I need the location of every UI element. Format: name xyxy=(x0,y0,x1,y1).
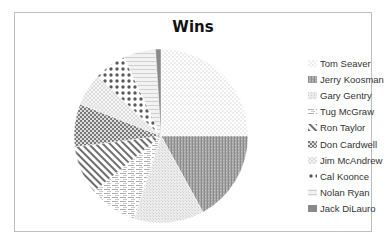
legend-item: Cal Koonce xyxy=(308,168,392,184)
legend-swatch xyxy=(308,124,317,131)
legend-item: Tom Seaver xyxy=(308,55,392,71)
legend-label: Tom Seaver xyxy=(320,58,371,69)
chart-legend: Tom SeaverJerry KoosmanGary GentryTug Mc… xyxy=(308,55,392,217)
legend-swatch xyxy=(308,92,317,99)
legend-swatch xyxy=(308,173,317,180)
legend-swatch xyxy=(308,76,317,83)
legend-label: Jerry Koosman xyxy=(320,74,384,85)
pie-slice-tom-seaver xyxy=(161,49,248,136)
legend-label: Don Cardwell xyxy=(320,139,377,150)
legend-label: Gary Gentry xyxy=(320,90,372,101)
legend-item: Jack DiLauro xyxy=(308,201,392,217)
legend-label: Ron Taylor xyxy=(320,122,365,133)
legend-item: Don Cardwell xyxy=(308,136,392,152)
legend-swatch xyxy=(308,60,317,67)
legend-item: Gary Gentry xyxy=(308,87,392,103)
legend-label: Nolan Ryan xyxy=(320,187,370,198)
legend-swatch xyxy=(308,189,317,196)
legend-swatch xyxy=(308,108,317,115)
legend-item: Nolan Ryan xyxy=(308,185,392,201)
legend-item: Ron Taylor xyxy=(308,120,392,136)
legend-swatch xyxy=(308,205,317,212)
legend-label: Tug McGraw xyxy=(320,106,374,117)
legend-item: Jerry Koosman xyxy=(308,71,392,87)
legend-item: Jim McAndrew xyxy=(308,152,392,168)
legend-label: Jim McAndrew xyxy=(320,155,382,166)
legend-swatch xyxy=(308,141,317,148)
legend-item: Tug McGraw xyxy=(308,104,392,120)
legend-label: Jack DiLauro xyxy=(320,203,375,214)
legend-swatch xyxy=(308,157,317,164)
legend-label: Cal Koonce xyxy=(320,171,369,182)
